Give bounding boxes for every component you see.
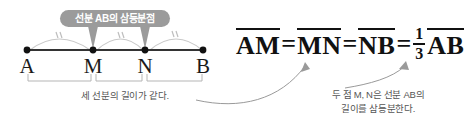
callout-tail-n-icon (140, 26, 150, 49)
arc-am (30, 39, 90, 50)
point-b-dot (200, 47, 207, 54)
tick-marks-mn-icon (118, 32, 124, 38)
trisection-note: 두 점 M, N은 선분 AB의 길이를 삼등분한다. (288, 88, 468, 116)
point-a-dot (24, 47, 31, 54)
trisection-figure: 선분 AB의 삼등분점 (0, 0, 473, 122)
trisection-point-callout: 선분 AB의 삼등분점 (60, 10, 170, 27)
fraction-denominator: 3 (413, 43, 425, 62)
callout-tail-m-icon (88, 26, 98, 49)
equation-equals-2: = (341, 29, 358, 59)
equation-equals-3: = (395, 29, 412, 59)
point-label-m: M (81, 56, 105, 77)
tick-marks-nb-icon (172, 31, 178, 37)
equation-term-am: AM (236, 28, 280, 61)
trisection-note-line2: 길이를 삼등분한다. (288, 102, 468, 116)
point-n-dot (142, 47, 149, 54)
point-label-n: N (133, 56, 157, 77)
segment-diagram: 선분 AB의 삼등분점 (0, 0, 240, 122)
trisection-note-line1: 두 점 M, N은 선분 AB의 (288, 88, 468, 102)
arc-nb (150, 39, 202, 50)
fraction-numerator: 1 (413, 26, 425, 43)
point-label-a: A (15, 56, 39, 77)
equation-term-nb: NB (358, 28, 395, 61)
trisection-equation: AM = MN = NB = 1 3 AB (236, 22, 468, 66)
point-label-b: B (191, 56, 215, 77)
equation-term-ab: AB (427, 28, 464, 61)
tick-marks-am-icon (56, 32, 62, 38)
connector-curve-right (345, 66, 405, 88)
equation-term-mn: MN (297, 28, 341, 61)
equation-fraction-one-third: 1 3 (413, 26, 425, 62)
arc-mn (97, 39, 143, 50)
equal-length-caption: 세 선분의 길이가 같다. (58, 88, 192, 102)
point-m-dot (90, 47, 97, 54)
equation-equals-1: = (280, 29, 297, 59)
